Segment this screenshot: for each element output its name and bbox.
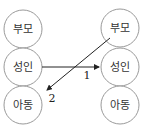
left-node-parent: 부모: [4, 10, 42, 48]
right-node-child: 아동: [101, 86, 139, 124]
edge-label: 1: [84, 69, 91, 82]
right-node-adult: 성인: [101, 48, 139, 86]
left-node-adult: 성인: [4, 48, 42, 86]
node-label: 아동: [13, 99, 33, 112]
edge-1: 1: [42, 67, 99, 82]
edge-2: 2: [47, 38, 110, 105]
node-label: 성인: [13, 61, 33, 74]
node-label: 아동: [110, 99, 130, 112]
edge-label: 2: [49, 92, 56, 105]
left-node-child: 아동: [4, 86, 42, 124]
node-label: 부모: [110, 22, 130, 35]
transaction-diagram: 부모 성인 아동 부모 성인 아동 1 2: [0, 0, 143, 133]
node-label: 성인: [110, 61, 130, 74]
node-label: 부모: [13, 23, 33, 36]
arrow-diagonal-icon: [47, 38, 110, 90]
